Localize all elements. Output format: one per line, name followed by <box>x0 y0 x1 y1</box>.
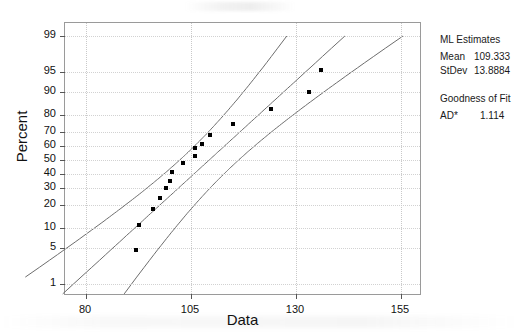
x-axis-title: Data <box>0 311 485 328</box>
gridline-horizontal-30 <box>65 188 420 189</box>
y-tick-mark-40 <box>60 174 65 175</box>
gridline-horizontal-40 <box>65 174 420 175</box>
stdev-row: StDev 13.8884 <box>440 65 518 79</box>
data-point <box>170 170 174 174</box>
y-tick-mark-80 <box>60 115 65 116</box>
data-point <box>208 133 212 137</box>
y-tick-label-5: 5 <box>30 241 56 252</box>
y-tick-mark-60 <box>60 146 65 147</box>
gridline-horizontal-95 <box>65 72 420 73</box>
plot-area <box>64 22 421 295</box>
lower-confidence-band <box>124 36 403 294</box>
normal-fit-line <box>63 36 345 294</box>
y-tick-label-95: 95 <box>30 65 56 76</box>
gridline-horizontal-70 <box>65 132 420 133</box>
y-tick-mark-1 <box>60 284 65 285</box>
y-tick-label-50: 50 <box>30 153 56 164</box>
y-tick-label-90: 90 <box>30 85 56 96</box>
gridline-vertical-130 <box>296 23 297 294</box>
x-tick-mark-80 <box>86 294 87 299</box>
y-tick-label-40: 40 <box>30 167 56 178</box>
y-tick-label-80: 80 <box>30 108 56 119</box>
y-tick-mark-99 <box>60 36 65 37</box>
data-point <box>231 122 235 126</box>
gridline-horizontal-60 <box>65 146 420 147</box>
y-tick-label-10: 10 <box>30 221 56 232</box>
data-point <box>269 107 273 111</box>
data-point <box>193 154 197 158</box>
stdev-label: StDev <box>440 65 467 76</box>
gridline-horizontal-50 <box>65 160 420 161</box>
gridline-horizontal-5 <box>65 248 420 249</box>
ad-row: AD* 1.114 <box>440 110 518 124</box>
y-tick-label-70: 70 <box>30 125 56 136</box>
mean-label: Mean <box>440 51 465 62</box>
gridline-vertical-155 <box>401 23 402 294</box>
goodness-of-fit-heading: Goodness of Fit <box>440 93 518 104</box>
gridline-vertical-80 <box>86 23 87 294</box>
gridline-horizontal-1 <box>65 284 420 285</box>
x-tick-mark-130 <box>296 294 297 299</box>
data-point <box>137 223 141 227</box>
mean-row: Mean 109.333 <box>440 51 518 65</box>
stdev-value: 13.8884 <box>474 65 510 76</box>
gridline-vertical-105 <box>191 23 192 294</box>
data-point <box>319 68 323 72</box>
ml-estimates-heading: ML Estimates <box>440 34 518 45</box>
y-tick-mark-95 <box>60 72 65 73</box>
y-tick-mark-20 <box>60 205 65 206</box>
x-tick-mark-155 <box>401 294 402 299</box>
scan-artifact-top <box>185 2 295 11</box>
y-tick-label-30: 30 <box>30 181 56 192</box>
gridline-horizontal-99 <box>65 36 420 37</box>
y-tick-label-60: 60 <box>30 139 56 150</box>
data-point <box>134 248 138 252</box>
ad-label: AD* <box>440 110 458 121</box>
statistics-panel: ML Estimates Mean 109.333 StDev 13.8884 … <box>440 34 518 124</box>
data-point <box>193 146 197 150</box>
gridline-horizontal-80 <box>65 115 420 116</box>
gridline-horizontal-10 <box>65 228 420 229</box>
data-point <box>158 196 162 200</box>
y-tick-mark-90 <box>60 92 65 93</box>
y-tick-mark-70 <box>60 132 65 133</box>
data-point <box>307 90 311 94</box>
y-tick-label-99: 99 <box>30 29 56 40</box>
probability-plot: Percent 999590807060504030201051 8010513… <box>0 0 518 336</box>
y-tick-mark-50 <box>60 160 65 161</box>
mean-value: 109.333 <box>474 51 510 62</box>
ad-value: 1.114 <box>480 110 504 121</box>
data-point <box>181 161 185 165</box>
gridline-horizontal-20 <box>65 205 420 206</box>
data-point <box>164 186 168 190</box>
y-tick-label-1: 1 <box>30 277 56 288</box>
y-axis-title: Percent <box>13 111 30 163</box>
data-point <box>151 207 155 211</box>
x-tick-mark-105 <box>191 294 192 299</box>
data-point <box>168 179 172 183</box>
y-tick-label-20: 20 <box>30 198 56 209</box>
panel-spacer <box>440 79 518 93</box>
data-point <box>200 142 204 146</box>
gridline-horizontal-90 <box>65 92 420 93</box>
y-tick-mark-10 <box>60 228 65 229</box>
y-tick-mark-5 <box>60 248 65 249</box>
y-tick-mark-30 <box>60 188 65 189</box>
